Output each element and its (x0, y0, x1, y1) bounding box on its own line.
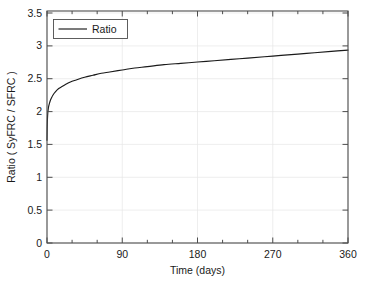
y-axis-title: Ratio ( SyFRC / SFRC ) (5, 71, 17, 182)
y-tick-label-3p5: 3.5 (27, 7, 42, 19)
figure-background (0, 0, 367, 297)
chart-figure: 0 0.5 1 1.5 2 2.5 3 3.5 0 90 180 270 360… (0, 0, 367, 297)
x-axis-title: Time (days) (170, 264, 225, 276)
y-tick-label-0p5: 0.5 (27, 204, 42, 216)
y-tick-label-2p5: 2.5 (27, 72, 42, 84)
x-tick-label-360: 360 (339, 248, 357, 260)
chart-legend[interactable]: Ratio (54, 20, 128, 39)
y-tick-label-2: 2 (36, 105, 42, 117)
y-tick-label-0: 0 (36, 237, 42, 249)
x-tick-label-270: 270 (264, 248, 282, 260)
x-tick-label-90: 90 (116, 248, 128, 260)
ratio-vs-time-line-chart: 0 0.5 1 1.5 2 2.5 3 3.5 0 90 180 270 360… (0, 0, 367, 297)
y-tick-label-1p5: 1.5 (27, 138, 42, 150)
legend-label-ratio: Ratio (92, 23, 117, 35)
y-tick-label-3: 3 (36, 39, 42, 51)
x-tick-label-0: 0 (44, 248, 50, 260)
x-tick-label-180: 180 (189, 248, 207, 260)
y-tick-label-1: 1 (36, 171, 42, 183)
